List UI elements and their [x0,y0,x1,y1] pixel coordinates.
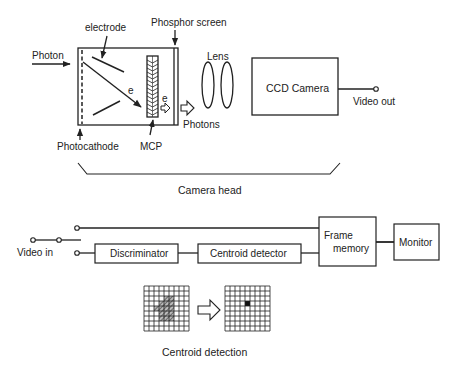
centroid-detection-caption: Centroid detection [162,346,247,358]
electron-output-arrow [161,103,170,113]
input-event-grid [144,286,189,331]
hatched-event-cell [169,296,174,301]
electrode-pointer-arrow [102,36,107,58]
video-in-terminal [31,238,36,243]
camera-head-label: Camera head [178,184,242,196]
centroid-detector-label: Centroid detector [210,248,287,259]
mcp-pointer-arrow [150,120,153,135]
electrode-lower [93,101,120,115]
electrode-upper [92,57,124,72]
frame-memory-box [319,217,376,266]
hatched-event-cell [169,301,174,306]
photons-label: Photons [183,119,220,130]
photon-label: Photon [32,50,64,61]
hatched-event-cell [159,311,164,316]
electrode-label: electrode [85,22,127,33]
hatched-event-cell [164,311,169,316]
frame-memory-label-line2: memory [333,243,369,254]
hatched-event-cell [169,306,174,311]
hatched-event-cell [154,306,159,311]
electron-label-1: e [128,85,134,96]
discriminator-label: Discriminator [110,248,169,259]
ccd-camera-label: CCD Camera [266,82,329,94]
mcp-label: MCP [140,141,163,152]
centroid-transform-arrow [198,300,220,320]
hatched-event-cell [169,316,174,321]
hatched-event-cell [164,306,169,311]
hatched-event-cell [159,306,164,311]
frame-memory-label-line1: Frame [324,230,353,241]
hatched-event-cell [159,316,164,321]
phosphor-screen-label: Phosphor screen [151,17,227,28]
camera-head-bracket [78,163,340,174]
video-in-label: Video in [17,247,53,258]
monitor-label: Monitor [399,237,433,248]
photons-output-arrow [181,101,194,115]
photocathode-label: Photocathode [57,141,119,152]
lens-2 [221,62,233,108]
lens-1 [202,62,214,108]
switch-terminal-direct [75,226,80,231]
mcp-plate [147,56,158,117]
lens-label: Lens [207,51,229,62]
hatched-event-cell [164,296,169,301]
hatched-event-cell [159,301,164,306]
centroid-cell [245,301,250,306]
centroid-output-grid [225,286,270,331]
switch-pivot [57,238,62,243]
hatched-event-cell [164,316,169,321]
video-out-label: Video out [353,96,395,107]
hatched-event-cell [169,311,174,316]
image-intensified-photon-counting-camera-diagram: electrode Phosphor screen Photon Photoca… [0,0,457,372]
electron-label-2: e [162,93,168,104]
hatched-event-cell [164,301,169,306]
switch-terminal-processed [75,251,80,256]
video-out-terminal [374,87,379,92]
